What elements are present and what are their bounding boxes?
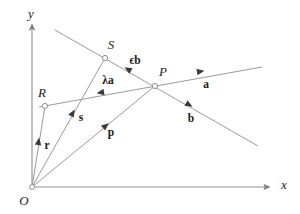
vector-label-b: b xyxy=(188,113,194,125)
vector-label-p: p xyxy=(108,127,114,139)
point-marker-S[interactable] xyxy=(102,55,107,60)
arrowheads-group xyxy=(35,64,205,145)
position-vector-s xyxy=(32,58,105,187)
vector-label-r: r xyxy=(44,140,49,152)
point-label-O: O xyxy=(19,194,28,207)
position-vectors-group xyxy=(32,58,155,187)
position-vector-p xyxy=(32,86,155,187)
axis-label-y: y xyxy=(28,7,34,20)
vector-label-s: s xyxy=(79,112,83,124)
point-marker-O[interactable] xyxy=(30,185,35,190)
axes-group xyxy=(32,24,270,187)
point-marker-R[interactable] xyxy=(42,103,47,108)
line-direction-a xyxy=(39,67,262,107)
axis-label-x: x xyxy=(281,178,287,191)
point-markers-group xyxy=(30,55,158,189)
vector-label-a: a xyxy=(203,79,209,91)
construction-lines-group xyxy=(39,30,262,146)
figure-canvas: x y O R S P a b λa ϵb r s p xyxy=(0,0,300,214)
point-label-P: P xyxy=(159,65,167,78)
point-marker-P[interactable] xyxy=(152,83,157,88)
vector-label-lambda-a: λa xyxy=(102,75,113,87)
point-label-R: R xyxy=(38,86,46,99)
point-label-S: S xyxy=(108,38,115,51)
vector-label-epsilon-b: ϵb xyxy=(129,55,140,67)
geometry-diagram-svg xyxy=(0,0,300,214)
arrowhead-a xyxy=(196,68,204,76)
arrowhead-r xyxy=(35,137,42,145)
